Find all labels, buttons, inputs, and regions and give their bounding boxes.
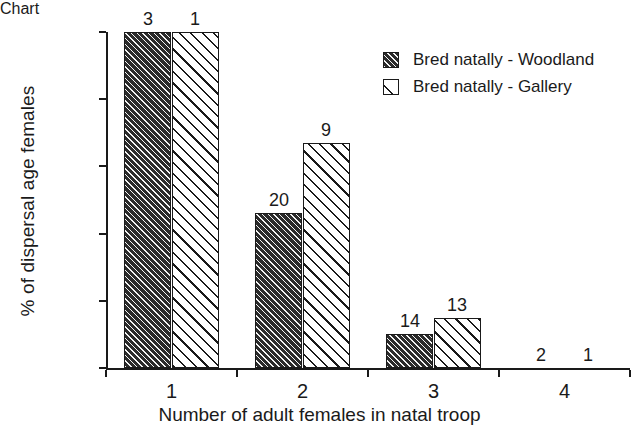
x-tick-label: 4 bbox=[505, 380, 625, 403]
x-tick bbox=[105, 370, 107, 377]
y-tick bbox=[99, 300, 106, 302]
bar-chart-figure: % of dispersal age females 0%20%40%60%80… bbox=[0, 0, 639, 443]
bar-value-label: 1 bbox=[155, 10, 235, 28]
x-axis-title: Number of adult females in natal troop bbox=[0, 404, 639, 426]
y-tick bbox=[99, 233, 106, 235]
y-axis-line bbox=[106, 32, 108, 368]
x-tick-label: 2 bbox=[243, 380, 363, 403]
bar bbox=[303, 143, 350, 368]
y-tick bbox=[99, 98, 106, 100]
legend-label: Bred natally - Gallery bbox=[413, 77, 572, 97]
legend-item: Bred natally - Woodland bbox=[383, 46, 594, 73]
y-tick bbox=[99, 165, 106, 167]
x-tick bbox=[629, 370, 631, 377]
x-tick bbox=[367, 370, 369, 377]
legend-item: Bred natally - Gallery bbox=[383, 73, 594, 100]
x-tick bbox=[498, 370, 500, 377]
bar-value-label: 9 bbox=[286, 121, 366, 139]
chart-legend: Bred natally - WoodlandBred natally - Ga… bbox=[383, 46, 594, 100]
legend-label: Bred natally - Woodland bbox=[413, 50, 594, 70]
bar bbox=[124, 32, 171, 368]
y-axis-title: % of dispersal age females bbox=[17, 21, 39, 381]
bar-value-label: 13 bbox=[417, 296, 497, 314]
bar-value-label: 20 bbox=[239, 191, 319, 209]
bar-value-label: 14 bbox=[370, 312, 450, 330]
x-tick bbox=[236, 370, 238, 377]
x-tick-label: 3 bbox=[374, 380, 494, 403]
bar bbox=[172, 32, 219, 368]
x-tick-label: 1 bbox=[112, 380, 232, 403]
legend-swatch-icon bbox=[383, 79, 399, 95]
bar bbox=[255, 213, 302, 368]
bar bbox=[386, 334, 433, 368]
legend-swatch-icon bbox=[383, 52, 399, 68]
bar-value-label: 1 bbox=[548, 346, 628, 364]
y-tick bbox=[99, 31, 106, 33]
y-tick bbox=[99, 367, 106, 369]
